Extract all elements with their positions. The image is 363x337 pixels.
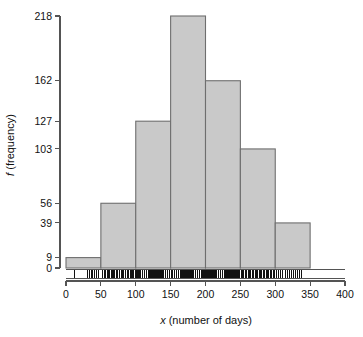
- x-axis: 050100150200250300350400: [63, 281, 354, 300]
- x-axis-tick-label: 350: [301, 288, 319, 300]
- histogram-bar: [275, 223, 310, 268]
- y-axis-tick-label: 0: [46, 262, 52, 274]
- histogram-figure: 093956103127162218 050100150200250300350…: [0, 0, 363, 337]
- x-axis-tick-label: 300: [266, 288, 284, 300]
- y-axis-tick-label: 162: [34, 74, 52, 86]
- x-axis-title: x (number of days): [159, 314, 252, 326]
- x-axis-tick-label: 0: [63, 288, 69, 300]
- x-axis-tick-label: 150: [162, 288, 180, 300]
- histogram-bar: [66, 258, 101, 268]
- histogram-bars-group: [66, 16, 310, 268]
- y-axis: 093956103127162218: [34, 10, 60, 274]
- y-axis-tick-label: 103: [34, 143, 52, 155]
- x-axis-tick-label: 400: [336, 288, 354, 300]
- rug-plot: [66, 270, 345, 279]
- histogram-bar: [101, 203, 136, 268]
- histogram-bar: [240, 149, 275, 268]
- histogram-chart: 093956103127162218 050100150200250300350…: [0, 0, 363, 337]
- x-axis-tick-label: 200: [197, 288, 215, 300]
- x-axis-tick-label: 100: [127, 288, 145, 300]
- x-axis-title-rest: (number of days): [166, 314, 252, 326]
- y-axis-tick-label: 56: [40, 197, 52, 209]
- x-axis-tick-label: 50: [95, 288, 107, 300]
- histogram-bar: [136, 121, 171, 268]
- histogram-bar: [206, 81, 241, 268]
- y-axis-tick-label: 9: [46, 251, 52, 263]
- y-axis-tick-label: 127: [34, 115, 52, 127]
- y-axis-title-rest: (frequency): [4, 114, 16, 173]
- y-axis-tick-label: 218: [34, 10, 52, 22]
- x-axis-tick-label: 250: [232, 288, 250, 300]
- histogram-bar: [171, 16, 206, 268]
- y-axis-tick-label: 39: [40, 217, 52, 229]
- y-axis-title: f (frequency): [4, 114, 16, 176]
